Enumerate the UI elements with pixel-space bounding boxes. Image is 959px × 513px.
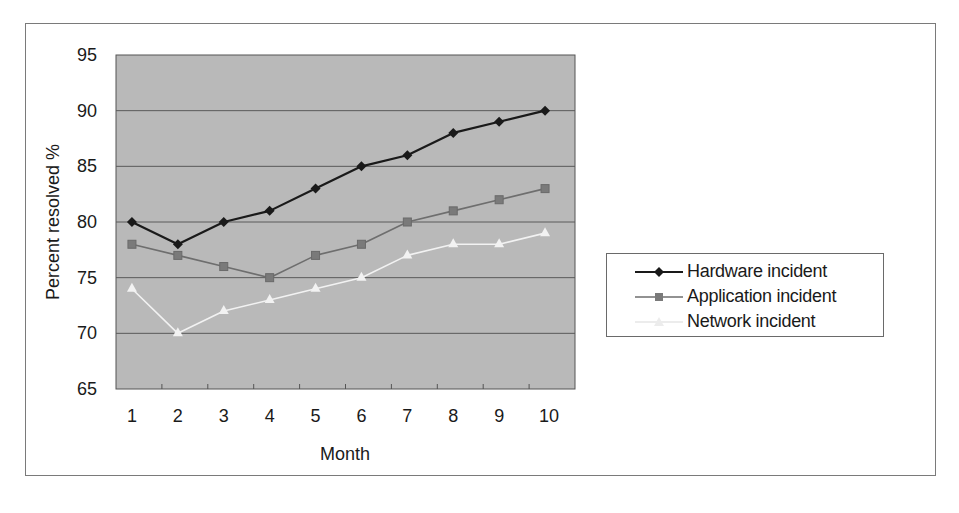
x-tick-label: 5 [311,406,321,426]
legend-label: Hardware incident [687,261,827,282]
legend-label: Network incident [687,311,815,332]
legend: Hardware incident Application incident N… [606,253,884,337]
triangle-marker-icon [635,314,683,330]
y-axis-tick-labels: 65707580859095 [77,45,97,399]
y-axis-title: Percent resolved % [43,144,63,300]
x-tick-label: 2 [173,406,183,426]
x-tick-label: 7 [402,406,412,426]
x-axis-tick-labels: 12345678910 [127,406,559,426]
x-tick-label: 8 [448,406,458,426]
y-tick-label: 90 [77,101,97,121]
x-tick-label: 3 [219,406,229,426]
y-tick-label: 70 [77,323,97,343]
square-marker-icon [312,251,320,259]
square-marker-icon [174,251,182,259]
square-marker-icon [128,240,136,248]
x-axis-title: Month [320,444,370,464]
x-tick-label: 1 [127,406,137,426]
diamond-marker-icon [635,264,683,280]
y-tick-label: 95 [77,45,97,65]
y-tick-label: 80 [77,212,97,232]
x-tick-label: 6 [356,406,366,426]
y-tick-label: 65 [77,379,97,399]
square-marker-icon [403,218,411,226]
y-tick-label: 85 [77,156,97,176]
x-tick-label: 9 [494,406,504,426]
square-marker-icon [541,185,549,193]
legend-item-hardware: Hardware incident [607,259,883,284]
square-marker-icon [357,240,365,248]
x-tick-label: 10 [539,406,559,426]
square-marker-icon [266,274,274,282]
legend-item-network: Network incident [607,309,883,334]
x-tick-label: 4 [265,406,275,426]
square-marker-icon [635,289,683,305]
legend-item-application: Application incident [607,284,883,309]
y-tick-label: 75 [77,268,97,288]
square-marker-icon [220,263,228,271]
square-marker-icon [449,207,457,215]
square-marker-icon [495,196,503,204]
legend-label: Application incident [687,286,836,307]
